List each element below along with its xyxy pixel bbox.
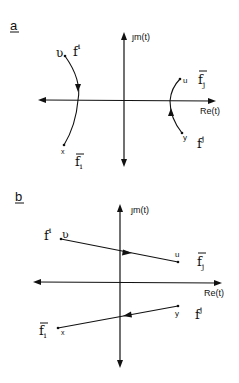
arrow-left-icon xyxy=(123,312,132,318)
panel-a: a ȷm(t) Re(t) ʋ x fi fi xyxy=(10,18,220,171)
arrow-right-icon xyxy=(208,98,216,104)
arrow-up-icon xyxy=(168,108,174,116)
arrow-down-icon xyxy=(121,159,127,167)
imaginary-axis xyxy=(121,32,127,167)
contour-right xyxy=(170,79,182,133)
diagram-canvas: a ȷm(t) Re(t) ʋ x fi fi xyxy=(0,0,239,383)
label-f-bar-i-sub: fi xyxy=(75,154,84,171)
point-v: ʋ xyxy=(56,46,63,60)
point-v: ʋ xyxy=(62,228,69,241)
point-y: y xyxy=(183,133,187,142)
panel-label-a: a xyxy=(10,18,18,33)
panel-label-b: b xyxy=(15,189,22,204)
svg-text:fj: fj xyxy=(198,72,205,89)
label-f-j-sup: fj xyxy=(195,305,202,322)
arrow-down-icon xyxy=(117,360,123,368)
real-axis-label: Re(t) xyxy=(200,106,220,116)
label-f-bar-j-sub: fj xyxy=(198,71,207,89)
real-axis-label: Re(t) xyxy=(204,288,224,298)
real-axis xyxy=(38,97,216,104)
point-u: u xyxy=(175,250,179,259)
point-y: y xyxy=(175,309,179,318)
label-f-bar-i-sub: fi xyxy=(39,323,48,340)
label-f-j-sup: fj xyxy=(197,134,204,151)
imaginary-axis xyxy=(117,204,123,368)
label-f-i-sup: fi xyxy=(73,42,81,59)
svg-text:fi: fi xyxy=(39,323,47,340)
arrow-left-icon xyxy=(38,97,46,103)
panel-b: b ȷm(t) Re(t) ʋ u fi fj xyxy=(15,189,224,368)
arrow-up-icon xyxy=(121,32,127,40)
point-x: x xyxy=(61,148,65,155)
svg-text:fj: fj xyxy=(197,254,204,271)
imag-axis-label: ȷm(t) xyxy=(130,205,149,215)
svg-text:fi: fi xyxy=(75,154,83,171)
imag-axis-label: ȷm(t) xyxy=(131,32,150,42)
point-x: x xyxy=(61,329,65,336)
arrow-down-icon xyxy=(75,84,81,92)
label-f-bar-j-sub: fj xyxy=(197,253,206,271)
contour-lower xyxy=(58,306,178,328)
arrow-right-icon xyxy=(122,250,132,256)
arrow-up-icon xyxy=(117,204,123,212)
label-f-i-sup: fi xyxy=(44,226,52,243)
arrow-right-icon xyxy=(214,280,222,286)
real-axis xyxy=(33,279,222,286)
point-u: u xyxy=(183,76,187,85)
arrow-left-icon xyxy=(33,279,41,285)
